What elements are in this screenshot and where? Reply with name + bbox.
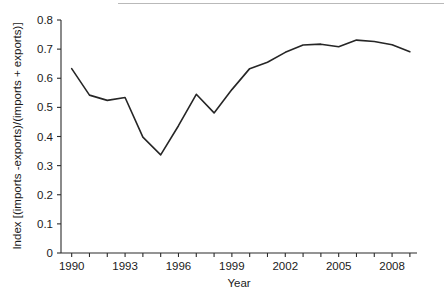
x-axis-ticks <box>72 253 410 257</box>
y-axis-title: Index [(imports -exports)/(imports + exp… <box>11 22 23 249</box>
x-axis-tick-labels: 1990199319961999200220052008 <box>59 260 405 272</box>
y-tick-label: 0.3 <box>37 160 53 172</box>
y-tick-label: 0.6 <box>37 72 53 84</box>
data-series-line <box>72 40 410 155</box>
x-tick-label: 2005 <box>326 260 352 272</box>
y-tick-label: 0.7 <box>37 43 53 55</box>
y-tick-label: 0.1 <box>37 218 53 230</box>
x-tick-label: 2002 <box>272 260 298 272</box>
chart-figure: 00.10.20.30.40.50.60.70.8 19901993199619… <box>0 0 444 300</box>
y-tick-label: 0.2 <box>37 189 53 201</box>
x-tick-label: 2008 <box>379 260 405 272</box>
x-tick-label: 1996 <box>166 260 192 272</box>
y-tick-label: 0.8 <box>37 14 53 26</box>
x-tick-label: 1999 <box>219 260 245 272</box>
x-tick-label: 1993 <box>112 260 138 272</box>
y-axis-tick-labels: 00.10.20.30.40.50.60.70.8 <box>37 14 54 259</box>
y-axis-ticks <box>57 20 61 253</box>
y-tick-label: 0.4 <box>37 131 54 143</box>
line-chart-plot: 00.10.20.30.40.50.60.70.8 19901993199619… <box>0 0 444 300</box>
top-rule <box>118 3 444 4</box>
x-axis-title: Year <box>227 277 250 289</box>
x-tick-label: 1990 <box>59 260 85 272</box>
y-tick-label: 0.5 <box>37 101 53 113</box>
y-tick-label: 0 <box>47 247 53 259</box>
